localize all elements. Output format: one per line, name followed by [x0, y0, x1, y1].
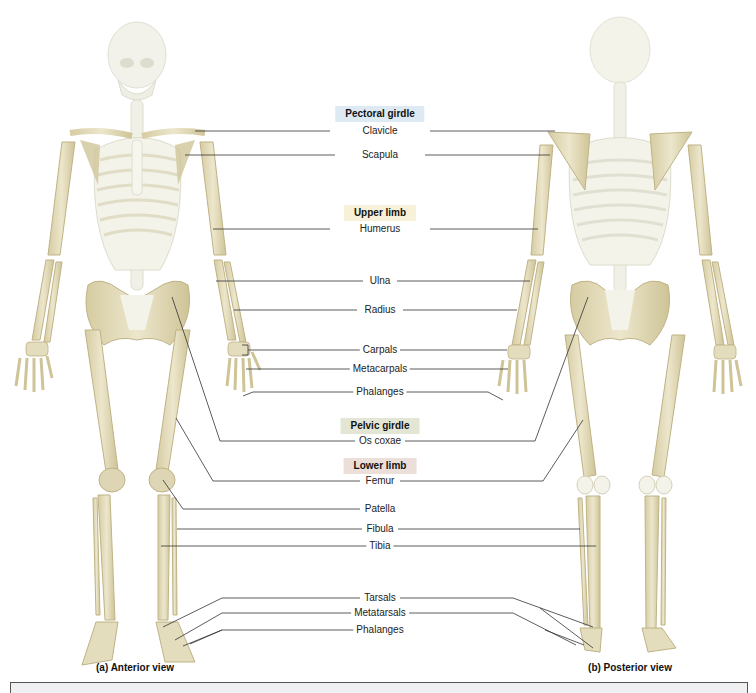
label-tarsals: Tarsals	[361, 592, 399, 604]
label-carpals: Carpals	[360, 344, 400, 356]
header-pelvic-girdle: Pelvic girdle	[341, 418, 420, 434]
label-tibia: Tibia	[366, 540, 393, 552]
label-os-coxae: Os coxae	[356, 435, 404, 447]
label-metatarsals: Metatarsals	[351, 607, 409, 619]
label-radius: Radius	[361, 304, 398, 316]
label-patella: Patella	[362, 503, 399, 515]
label-humerus: Humerus	[357, 223, 404, 235]
header-lower-limb: Lower limb	[344, 458, 417, 474]
caption-posterior-view: (b) Posterior view	[588, 662, 672, 673]
posterior-skeleton	[499, 17, 741, 652]
label-clavicle: Clavicle	[359, 125, 400, 137]
label-hand-phalanges: Phalanges	[353, 386, 406, 398]
label-fibula: Fibula	[363, 523, 396, 535]
label-foot-phalanges: Phalanges	[353, 624, 406, 636]
bottom-border-panel	[10, 682, 748, 693]
label-ulna: Ulna	[367, 275, 394, 287]
label-femur: Femur	[363, 475, 398, 487]
anterior-skeleton	[16, 22, 260, 665]
caption-anterior-view: (a) Anterior view	[96, 662, 174, 673]
header-upper-limb: Upper limb	[344, 205, 416, 221]
label-scapula: Scapula	[359, 149, 401, 161]
label-metacarpals: Metacarpals	[350, 363, 410, 375]
header-pectoral-girdle: Pectoral girdle	[335, 106, 424, 122]
